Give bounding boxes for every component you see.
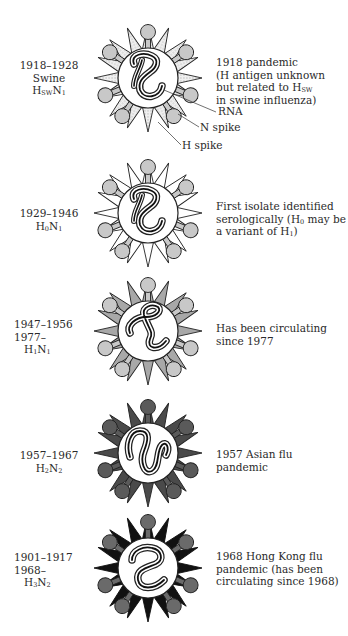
- callout-rna: RNA: [218, 105, 243, 117]
- entry-1-strain: Swine: [14, 72, 84, 85]
- entry-5-subtype: H3N2: [14, 576, 84, 589]
- callout-n-spike: N spike: [200, 121, 241, 133]
- virus-diagram-h2n2: [90, 395, 206, 511]
- virus-diagram-h1n1: [90, 273, 206, 389]
- entry-5-years-1: 1901–1917: [14, 551, 84, 564]
- entry-5-label: 1901–1917 1968– H3N2: [14, 551, 84, 589]
- virus-diagram-h3n2: [90, 510, 206, 626]
- entry-4-subtype: H2N2: [14, 462, 84, 475]
- entry-1-years: 1918–1928: [14, 59, 84, 72]
- entry-1-subtype: HSWN1: [14, 84, 84, 97]
- entry-1-description: 1918 pandemic (H antigen unknown but rel…: [216, 56, 348, 106]
- callout-h-spike: H spike: [182, 139, 223, 151]
- entry-2-subtype: H0N1: [14, 220, 84, 233]
- entry-3-subtype: H1N1: [14, 343, 84, 356]
- entry-2-years: 1929–1946: [14, 207, 84, 220]
- entry-3-description: Has been circulating since 1977: [216, 322, 348, 347]
- entry-4-label: 1957–1967 H2N2: [14, 449, 84, 474]
- entry-2-description: First isolate identified serologically (…: [216, 200, 348, 238]
- entry-3-years-1: 1947–1956: [14, 318, 84, 331]
- entry-3-years-2: 1977–: [14, 331, 84, 344]
- virus-diagram-h0n1: [90, 155, 206, 271]
- entry-5-description: 1968 Hong Kong flu pandemic (has been ci…: [216, 550, 348, 588]
- entry-4-description: 1957 Asian flu pandemic: [216, 448, 348, 473]
- entry-2-label: 1929–1946 H0N1: [14, 207, 84, 232]
- entry-3-label: 1947–1956 1977– H1N1: [14, 318, 84, 356]
- entry-1-label: 1918–1928 Swine HSWN1: [14, 59, 84, 97]
- entry-5-years-2: 1968–: [14, 564, 84, 577]
- virus-diagram-hswn1: [90, 20, 206, 136]
- entry-4-years: 1957–1967: [14, 449, 84, 462]
